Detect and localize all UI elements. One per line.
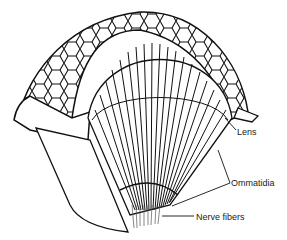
ommatidia-label: Ommatidia <box>231 178 275 188</box>
compound-eye-diagram <box>0 0 287 240</box>
nerve-fibers-label: Nerve fibers <box>196 212 245 222</box>
lens-label: Lens <box>237 127 257 137</box>
